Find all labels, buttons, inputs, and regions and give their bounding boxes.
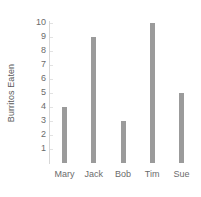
- plot-area: [50, 20, 196, 163]
- y-tick-label: 4: [30, 102, 46, 111]
- x-tick-label: Sue: [161, 168, 201, 180]
- y-tick-label: 2: [30, 130, 46, 139]
- y-tick-label: 5: [30, 88, 46, 97]
- y-tick-label: 3: [30, 116, 46, 125]
- bar: [91, 37, 96, 163]
- y-axis-tick-labels: 12345678910: [26, 0, 46, 197]
- bar: [62, 107, 67, 163]
- y-tick-label: 7: [30, 60, 46, 69]
- y-axis-title: Burritos Eaten: [4, 18, 18, 168]
- y-tick-label: 10: [30, 18, 46, 27]
- bar: [121, 121, 126, 163]
- y-tick-label: 1: [30, 144, 46, 153]
- bar-chart: Burritos Eaten 12345678910 MaryJackBobTi…: [0, 0, 201, 197]
- y-tick-label: 9: [30, 32, 46, 41]
- y-tick-label: 6: [30, 74, 46, 83]
- x-axis-tick-labels: MaryJackBobTimSue: [50, 168, 196, 182]
- y-tick-label: 8: [30, 46, 46, 55]
- bar: [179, 93, 184, 163]
- bar: [150, 23, 155, 163]
